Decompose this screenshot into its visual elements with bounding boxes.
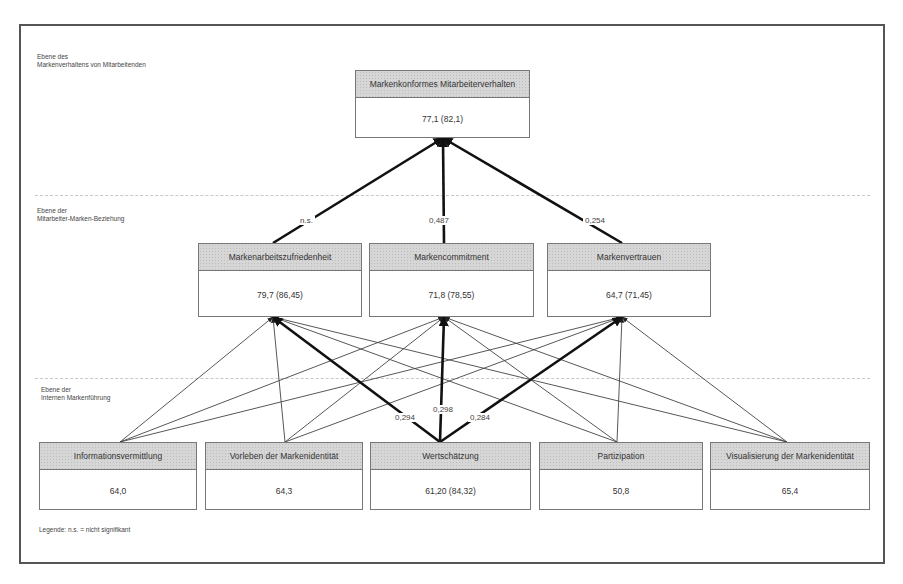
node-value: 64,0: [40, 470, 196, 511]
path-arrow-bold: [273, 317, 440, 442]
path-arrow-bold: [440, 317, 622, 442]
node-partizipation: Partizipation 50,8: [539, 442, 703, 510]
path-arrow-bold: [443, 138, 622, 243]
path-arrow: [285, 317, 622, 442]
coef-commitment-to-verhalten: 0,487: [427, 216, 451, 225]
node-title: Markenkonformes Mitarbeiterverhalten: [356, 71, 529, 98]
node-title: Markenarbeitszufriedenheit: [199, 244, 361, 271]
node-value: 79,7 (86,45): [199, 271, 361, 318]
node-title: Partizipation: [540, 443, 702, 470]
node-title: Markenvertrauen: [548, 244, 710, 271]
node-markencommitment: Markencommitment 71,8 (78,55): [369, 243, 534, 317]
node-value: 64,7 (71,45): [548, 271, 710, 318]
node-visualisierung-markenidentitaet: Visualisierung der Markenidentität 65,4: [710, 442, 870, 510]
path-arrow: [617, 317, 622, 442]
node-title: Wertschätzung: [371, 443, 530, 470]
path-arrow: [120, 317, 444, 442]
coef-wertschaetzung-to-zufriedenheit: 0,294: [393, 413, 417, 422]
node-markenkonformes-verhalten: Markenkonformes Mitarbeiterverhalten 77,…: [355, 70, 530, 138]
path-arrow: [120, 317, 622, 442]
node-value: 61,20 (84,32): [371, 470, 530, 511]
node-value: 77,1 (82,1): [356, 98, 529, 139]
node-informationsvermittlung: Informationsvermittlung 64,0: [39, 442, 197, 510]
coef-wertschaetzung-to-vertrauen: 0,284: [468, 413, 492, 422]
path-arrow-bold: [440, 317, 444, 442]
node-title: Vorleben der Markenidentität: [206, 443, 362, 470]
node-markenvertrauen: Markenvertrauen 64,7 (71,45): [547, 243, 711, 317]
path-arrow-bold: [273, 138, 443, 243]
coef-zufriedenheit-to-verhalten: n.s.: [298, 216, 315, 225]
path-arrow: [285, 317, 444, 442]
node-title: Markencommitment: [370, 244, 533, 271]
path-arrow: [444, 317, 787, 442]
node-value: 50,8: [540, 470, 702, 511]
legend: Legende: n.s. = nicht signifikant: [39, 526, 130, 533]
node-vorleben-markenidentitaet: Vorleben der Markenidentität 64,3: [205, 442, 363, 510]
path-arrow-bold: [443, 138, 444, 243]
node-wertschaetzung: Wertschätzung 61,20 (84,32): [370, 442, 531, 510]
path-arrow: [273, 317, 617, 442]
coef-vertrauen-to-verhalten: 0,254: [583, 216, 607, 225]
node-value: 65,4: [711, 470, 869, 511]
node-markenarbeitszufriedenheit: Markenarbeitszufriedenheit 79,7 (86,45): [198, 243, 362, 317]
node-title: Informationsvermittlung: [40, 443, 196, 470]
node-value: 64,3: [206, 470, 362, 511]
node-title: Visualisierung der Markenidentität: [711, 443, 869, 470]
coef-wertschaetzung-to-commitment: 0,298: [431, 405, 455, 414]
node-value: 71,8 (78,55): [370, 271, 533, 318]
path-arrow: [622, 317, 787, 442]
